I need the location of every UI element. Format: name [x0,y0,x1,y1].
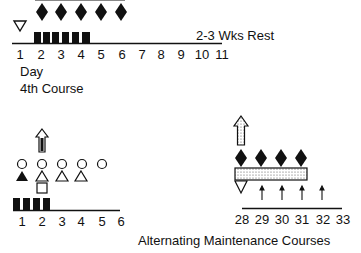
course-label: 4th Course [20,82,84,95]
day-label: Day [20,65,43,78]
open-triangle-icon-bottom-right [235,181,247,193]
dose-bars-bottom-left [13,198,50,210]
dose-bars-top [34,32,90,43]
day-tick-bl-3: 3 [58,215,65,228]
day-tick-top-8: 8 [157,48,164,61]
day-tick-bl-5: 5 [98,215,105,228]
day-tick-br-32: 32 [316,213,330,226]
day-tick-top-5: 5 [97,48,104,61]
day-tick-top-4: 4 [77,48,84,61]
day-tick-bl-1: 1 [18,215,25,228]
rest-label: 2-3 Wks Rest [196,29,274,42]
day-tick-top-1: 1 [16,48,23,61]
day-tick-top-7: 7 [138,48,145,61]
dotted-arrow-up-icon [234,116,248,145]
arrow-up-icon-left [36,129,48,152]
diamond-icons-bottom-right [235,149,307,167]
day-tick-top-11: 11 [215,48,229,61]
circle-icons [18,160,107,169]
small-arrow-icons [260,186,324,200]
day-tick-br-29: 29 [255,213,269,226]
day-tick-br-28: 28 [235,213,249,226]
day-tick-br-30: 30 [275,213,289,226]
caption: Alternating Maintenance Courses [138,234,330,247]
day-tick-br-33: 33 [336,213,350,226]
day-tick-top-3: 3 [57,48,64,61]
day-tick-br-31: 31 [295,213,309,226]
day-tick-bl-2: 2 [38,215,45,228]
day-tick-top-2: 2 [37,48,44,61]
diamond-icons-top [36,3,127,21]
open-triangle-icon-top [14,21,26,31]
day-tick-bl-6: 6 [117,215,124,228]
filled-triangle-icon [16,171,28,181]
day-tick-top-10: 10 [195,48,209,61]
open-triangle-icons [36,171,87,181]
day-tick-top-6: 6 [118,48,125,61]
day-tick-top-9: 9 [177,48,184,61]
infusion-bar [235,168,307,180]
day-tick-bl-4: 4 [77,215,84,228]
open-square-icon [37,183,47,193]
